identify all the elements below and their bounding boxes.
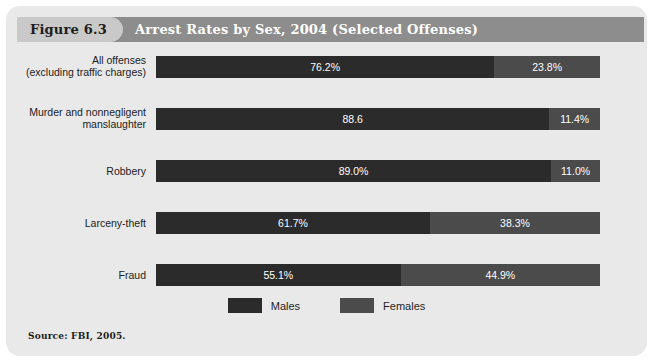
legend-swatch-males-icon: [228, 298, 262, 313]
bar-value-males: 61.7%: [278, 217, 308, 229]
figure-number-pill: Figure 6.3: [17, 17, 123, 42]
bar-segment-females: 11.0%: [551, 160, 600, 182]
chart-legend: Males Females: [6, 298, 647, 313]
row-label: Robbery: [6, 165, 146, 177]
bar-value-males: 55.1%: [263, 269, 293, 281]
bar-value-males: 88.6: [342, 113, 362, 125]
bar-value-females: 11.0%: [561, 165, 590, 177]
chart-plot-area: All offenses (excluding traffic charges)…: [6, 52, 647, 292]
legend-label-females: Females: [383, 300, 425, 312]
figure-card: Figure 6.3 Arrest Rates by Sex, 2004 (Se…: [6, 6, 647, 356]
bar-segment-females: 11.4%: [549, 108, 600, 130]
stacked-bar: 61.7% 38.3%: [156, 212, 600, 234]
legend-label-males: Males: [271, 300, 300, 312]
bar-segment-males: 55.1%: [156, 264, 401, 286]
bar-segment-males: 76.2%: [156, 56, 494, 78]
bar-value-males: 76.2%: [310, 61, 340, 73]
stacked-bar: 55.1% 44.9%: [156, 264, 600, 286]
chart-row: Larceny-theft 61.7% 38.3%: [6, 212, 647, 234]
row-label: Larceny-theft: [6, 217, 146, 229]
bar-segment-males: 88.6: [156, 108, 549, 130]
legend-swatch-females-icon: [340, 298, 374, 313]
figure-source: Source: FBI, 2005.: [28, 331, 126, 341]
row-label: All offenses (excluding traffic charges): [6, 54, 146, 78]
bar-value-females: 44.9%: [485, 269, 515, 281]
chart-row: All offenses (excluding traffic charges)…: [6, 56, 647, 78]
stacked-bar: 88.6 11.4%: [156, 108, 600, 130]
bar-segment-males: 61.7%: [156, 212, 430, 234]
figure-number-label: Figure 6.3: [30, 22, 107, 37]
bar-value-females: 38.3%: [500, 217, 530, 229]
figure-header: Figure 6.3 Arrest Rates by Sex, 2004 (Se…: [17, 17, 644, 42]
figure-page: Figure 6.3 Arrest Rates by Sex, 2004 (Se…: [0, 0, 653, 364]
chart-row: Robbery 89.0% 11.0%: [6, 160, 647, 182]
bar-value-females: 23.8%: [532, 61, 562, 73]
stacked-bar: 76.2% 23.8%: [156, 56, 600, 78]
bar-segment-females: 38.3%: [430, 212, 600, 234]
figure-title: Arrest Rates by Sex, 2004 (Selected Offe…: [135, 17, 478, 42]
legend-item-females: Females: [340, 298, 425, 313]
stacked-bar: 89.0% 11.0%: [156, 160, 600, 182]
bar-segment-males: 89.0%: [156, 160, 551, 182]
chart-row: Murder and nonnegligent manslaughter 88.…: [6, 108, 647, 130]
row-label: Murder and nonnegligent manslaughter: [6, 106, 146, 130]
bar-segment-females: 44.9%: [401, 264, 600, 286]
bar-value-males: 89.0%: [339, 165, 369, 177]
legend-item-males: Males: [228, 298, 300, 313]
row-label: Fraud: [6, 269, 146, 281]
bar-value-females: 11.4%: [560, 113, 589, 125]
chart-row: Fraud 55.1% 44.9%: [6, 264, 647, 286]
bar-segment-females: 23.8%: [494, 56, 600, 78]
